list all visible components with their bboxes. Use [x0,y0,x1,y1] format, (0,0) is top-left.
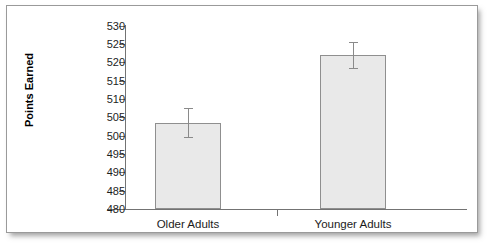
y-axis-tick-row: 510 [67,99,125,100]
y-axis-tick-label: 515 [79,76,125,87]
error-bar-stem [353,42,354,68]
y-axis-tick-row: 480 [67,209,125,210]
y-axis-title: Points Earned [23,40,35,140]
y-axis-tick-row: 490 [67,172,125,173]
error-bar-cap-lower [349,68,358,69]
x-axis-center-tick [277,210,278,216]
error-bar-stem [188,108,189,137]
y-axis-tick-label: 480 [79,204,125,215]
y-axis-tick-label: 510 [79,94,125,105]
error-bar-cap-upper [184,108,193,109]
x-axis-line [107,209,467,210]
y-axis-tick-row: 525 [67,44,125,45]
y-axis-tick-label: 525 [79,39,125,50]
y-axis-tick-label: 490 [79,167,125,178]
y-axis-tick-label: 500 [79,131,125,142]
x-axis-label-older-adults: Older Adults [118,218,258,230]
y-axis-tick-label: 530 [79,21,125,32]
y-axis-tick-label: 485 [79,186,125,197]
y-axis-tick-label: 520 [79,57,125,68]
bar-younger-adults [320,55,386,209]
y-axis-tick-row: 530 [67,26,125,27]
x-axis-label-younger-adults: Younger Adults [283,218,423,230]
y-axis-tick-row: 495 [67,154,125,155]
error-bar-cap-lower [184,137,193,138]
y-axis-tick-row: 520 [67,62,125,63]
chart-plot-area: Points Earned 53052552051551050550049549… [7,6,477,232]
y-axis-tick-row: 505 [67,117,125,118]
y-axis-tick-row: 515 [67,81,125,82]
y-axis-line [125,25,126,210]
y-axis-tick-row: 485 [67,191,125,192]
error-bar-cap-upper [349,42,358,43]
y-axis-tick-label: 505 [79,112,125,123]
y-axis-tick-label: 495 [79,149,125,160]
y-axis-tick-row: 500 [67,136,125,137]
figure-card: Points Earned 53052552051551050550049549… [6,5,478,233]
